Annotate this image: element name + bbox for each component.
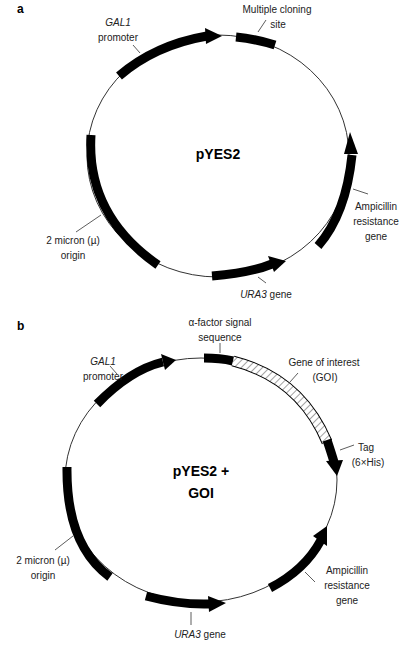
ampicillin-label-3: gene [336,595,359,606]
ampicillin-label-2: resistance [353,216,399,227]
ori-label: 2 micron (µ) [16,555,70,566]
tag-label-2: (6×His) [352,457,385,468]
gal1-label: GAL1 [90,356,116,367]
plasmid-name-a: pYES2 [196,146,241,162]
ampicillin-feature [318,155,352,246]
plasmid-name-b-2: GOI [188,485,214,501]
ampicillin-label: Ampicillin [326,565,368,576]
leader-line [55,536,73,550]
gal1-arrowhead [161,354,176,370]
plasmid-maps: a pYES2 GAL1 promoter Multiple cloning s… [0,0,405,654]
ori-feature [67,467,110,577]
leader-line [290,373,298,382]
ampicillin-label-2: resistance [324,580,370,591]
ampicillin-label-3: gene [365,231,388,242]
ori-feature [91,135,158,265]
tag-feature [327,440,334,462]
ori-label-2: origin [31,570,55,581]
leader-line [258,20,266,32]
ura3-feature [212,264,272,276]
plasmid-name-b: pYES2 + [173,463,229,479]
ura3-label: URA3 gene [240,289,292,300]
gal1-arrowhead [205,28,222,44]
ura3-arrowhead [208,596,226,612]
ori-label-2: origin [61,250,85,261]
goi-label: Gene of interest [288,357,359,368]
ura3-label: URA3 gene [174,629,226,640]
panel-a-letter: a [17,2,24,16]
gal1-label-2: promoter [98,32,139,43]
ura3-feature [146,596,210,604]
goi-label-2: (GOI) [313,372,338,383]
ori-label: 2 micron (µ) [46,235,100,246]
mcs-label-2: site [270,19,286,30]
leader-line [76,215,101,232]
tag-arrowhead [326,460,343,476]
panel-b: b pYES2 + GOI α-factor signal sequence [16,317,384,640]
alpha-factor-label-2: sequence [198,332,242,343]
panel-b-letter: b [17,319,24,333]
ampicillin-label: Ampicillin [355,201,397,212]
alpha-factor-label: α-factor signal [188,317,251,328]
gal1-promoter-feature [97,362,163,404]
leader-line [353,189,368,194]
gal1-label-2: promoter [83,371,124,382]
leader-line [340,445,354,450]
alpha-factor-feature [204,358,233,361]
ampicillin-arrowhead [344,132,358,154]
mcs-feature [236,37,275,45]
gal1-label: GAL1 [105,17,131,28]
leader-line [305,572,315,582]
leader-line [258,277,266,283]
panel-a: a pYES2 GAL1 promoter Multiple cloning s… [17,2,399,300]
mcs-label: Multiple cloning [243,4,312,15]
leader-line [133,45,140,53]
tag-label: Tag [358,442,374,453]
